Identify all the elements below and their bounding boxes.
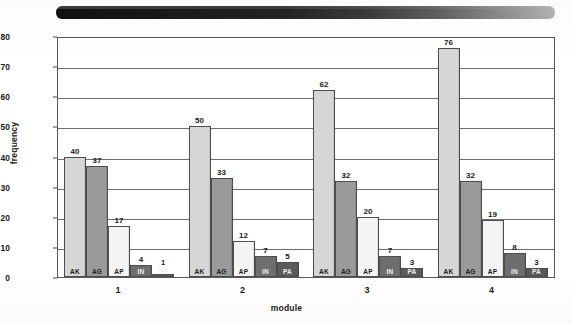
bar-group-bars: 50AK33AG12AP7IN5PA xyxy=(189,38,299,277)
bar-1-PA[interactable]: 1PA xyxy=(152,274,174,277)
bar-4-AG[interactable]: 32AG xyxy=(460,181,482,277)
bar-3-AK[interactable]: 62AK xyxy=(313,90,335,277)
bar-series-label: PA xyxy=(153,267,173,274)
bar-series-label: PA xyxy=(278,268,298,275)
bar-series-label: AP xyxy=(358,268,378,275)
bar-series-label: PA xyxy=(402,268,422,275)
bar-value-label: 8 xyxy=(499,243,531,252)
x-tick-4: 4 xyxy=(432,285,552,295)
bar-2-PA[interactable]: 5PA xyxy=(277,262,299,277)
bar-value-label: 20 xyxy=(352,207,384,216)
bar-group-4: 76AK32AG19AP8IN3PA xyxy=(438,38,548,277)
bar-value-label: 1 xyxy=(147,258,179,267)
bar-chart-figure: frequency 80706050403020100 40AK37AG17AP… xyxy=(0,0,573,324)
y-tick-0: 0 xyxy=(0,273,10,283)
bar-value-label: 3 xyxy=(521,258,553,267)
bar-value-label: 32 xyxy=(330,171,362,180)
bar-series-label: IN xyxy=(131,268,151,275)
bar-value-label: 62 xyxy=(308,80,340,89)
bar-series-label: IN xyxy=(380,268,400,275)
bar-value-label: 3 xyxy=(396,258,428,267)
x-tick-1: 1 xyxy=(58,285,178,295)
bar-series-label: AK xyxy=(439,268,459,275)
x-tick-2: 2 xyxy=(183,285,303,295)
bar-2-AK[interactable]: 50AK xyxy=(189,126,211,277)
bar-value-label: 37 xyxy=(81,156,113,165)
y-tick-40: 40 xyxy=(0,153,10,163)
bar-4-AK[interactable]: 76AK xyxy=(438,48,460,277)
bar-series-label: AP xyxy=(483,268,503,275)
x-axis-title: module xyxy=(0,303,573,313)
bar-series-label: AK xyxy=(314,268,334,275)
y-tick-20: 20 xyxy=(0,213,10,223)
y-tick-80: 80 xyxy=(0,32,10,42)
bar-series-label: AK xyxy=(190,268,210,275)
y-tick-10: 10 xyxy=(0,243,10,253)
bar-group-1: 40AK37AG17AP4IN1PA xyxy=(64,38,174,277)
bar-series-label: IN xyxy=(505,268,525,275)
y-axis-title: frequency xyxy=(9,113,19,173)
bar-value-label: 50 xyxy=(184,116,216,125)
bar-value-label: 7 xyxy=(374,246,406,255)
bar-value-label: 12 xyxy=(228,231,260,240)
bar-group-bars: 40AK37AG17AP4IN1PA xyxy=(64,38,174,277)
x-tick-3: 3 xyxy=(307,285,427,295)
bar-value-label: 19 xyxy=(477,210,509,219)
y-tick-70: 70 xyxy=(0,62,10,72)
bar-series-label: AG xyxy=(461,268,481,275)
bar-group-bars: 62AK32AG20AP7IN3PA xyxy=(313,38,423,277)
bar-group-bars: 76AK32AG19AP8IN3PA xyxy=(438,38,548,277)
y-tick-50: 50 xyxy=(0,122,10,132)
bar-3-AG[interactable]: 32AG xyxy=(335,181,357,277)
bar-series-label: PA xyxy=(527,268,547,275)
bar-4-PA[interactable]: 3PA xyxy=(526,268,548,277)
bar-value-label: 76 xyxy=(433,38,465,47)
bar-series-label: AP xyxy=(234,268,254,275)
bar-value-label: 17 xyxy=(103,216,135,225)
bar-series-label: AG xyxy=(212,268,232,275)
bar-series-label: AG xyxy=(336,268,356,275)
bar-group-3: 62AK32AG20AP7IN3PA xyxy=(313,38,423,277)
bar-value-label: 5 xyxy=(272,252,304,261)
bar-value-label: 32 xyxy=(455,171,487,180)
bar-group-2: 50AK33AG12AP7IN5PA xyxy=(189,38,299,277)
bar-series-label: AK xyxy=(65,268,85,275)
plot-area: 40AK37AG17AP4IN1PA50AK33AG12AP7IN5PA62AK… xyxy=(57,37,555,278)
bar-series-label: AP xyxy=(109,268,129,275)
bar-series-label: AG xyxy=(87,268,107,275)
bar-3-PA[interactable]: 3PA xyxy=(401,268,423,277)
bar-series-label: IN xyxy=(256,268,276,275)
bar-value-label: 40 xyxy=(59,147,91,156)
bar-2-AG[interactable]: 33AG xyxy=(211,178,233,277)
bar-1-AK[interactable]: 40AK xyxy=(64,157,86,278)
bar-1-AP[interactable]: 17AP xyxy=(108,226,130,277)
y-tick-30: 30 xyxy=(0,183,10,193)
y-tick-60: 60 xyxy=(0,92,10,102)
bar-value-label: 33 xyxy=(206,168,238,177)
